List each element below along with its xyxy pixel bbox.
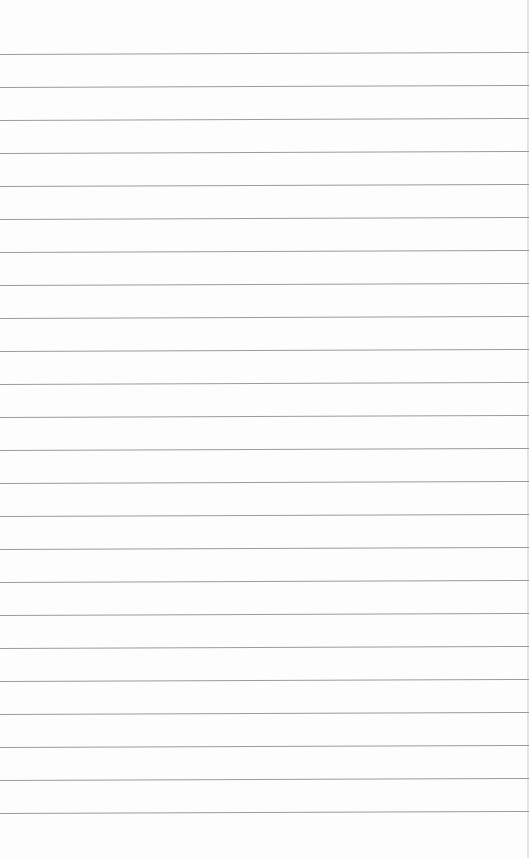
ruled-line — [0, 448, 529, 451]
ruled-line — [0, 184, 529, 187]
ruled-line — [0, 151, 529, 154]
lined-paper-sheet — [0, 0, 529, 858]
ruled-line — [0, 283, 529, 286]
ruled-line — [0, 349, 529, 352]
ruled-line — [0, 712, 529, 715]
ruled-line — [0, 85, 529, 88]
ruled-line — [0, 316, 529, 319]
ruled-line — [0, 580, 529, 583]
ruled-line — [0, 547, 529, 550]
ruled-line — [0, 382, 529, 385]
ruled-line — [0, 415, 529, 418]
ruled-line — [0, 250, 529, 253]
ruled-line — [0, 778, 529, 781]
ruled-line — [0, 514, 529, 517]
ruled-line — [0, 613, 529, 616]
ruled-line — [0, 679, 529, 682]
ruled-line — [0, 481, 529, 484]
ruled-line — [0, 118, 529, 121]
ruled-line — [0, 811, 529, 814]
ruled-line — [0, 52, 529, 55]
ruled-line — [0, 217, 529, 220]
ruled-line — [0, 745, 529, 748]
ruled-line — [0, 646, 529, 649]
